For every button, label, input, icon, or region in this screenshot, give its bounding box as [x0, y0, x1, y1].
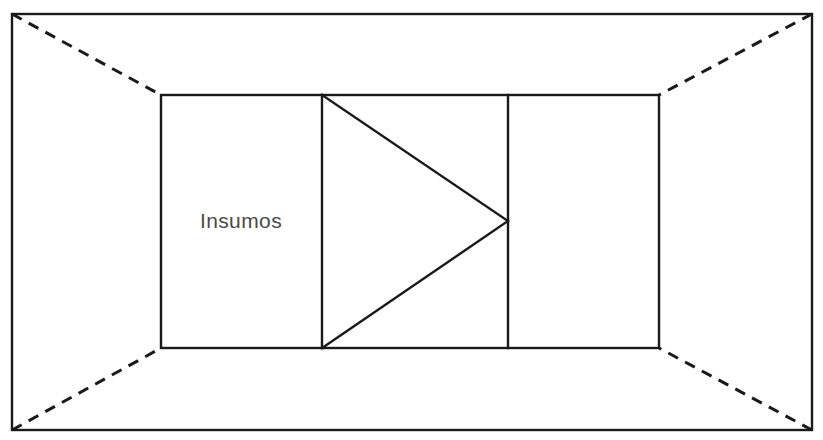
process-arrow-triangle: [322, 95, 508, 348]
perspective-line-top-right: [659, 14, 812, 95]
diagram-svg: Insumos: [0, 0, 823, 440]
perspective-line-bottom-left: [12, 348, 161, 430]
perspective-line-bottom-right: [659, 348, 812, 430]
diagram-canvas: Insumos: [0, 0, 823, 440]
perspective-line-top-left: [12, 14, 161, 95]
label-insumos: Insumos: [200, 209, 282, 232]
